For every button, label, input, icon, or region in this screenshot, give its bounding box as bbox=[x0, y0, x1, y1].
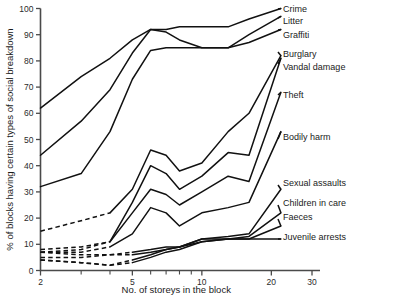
legend-label-10: Juvenile arrests bbox=[283, 232, 347, 242]
series-line-5 bbox=[110, 92, 281, 241]
legend-leader-0 bbox=[278, 9, 281, 10]
y-tick-label: 60 bbox=[24, 108, 34, 118]
series-line-0 bbox=[41, 9, 281, 109]
series-line-1 bbox=[41, 16, 281, 155]
legend-leader-7 bbox=[278, 185, 281, 189]
series-line-9 bbox=[132, 226, 281, 260]
legend-label-7: Sexual assaults bbox=[283, 178, 347, 188]
x-axis-title: No. of storeys in the block bbox=[122, 284, 232, 295]
legend-leader-3 bbox=[278, 52, 281, 56]
y-tick-label: 80 bbox=[24, 56, 34, 66]
y-tick-label: 0 bbox=[29, 266, 34, 276]
legend-leader-2 bbox=[278, 29, 281, 30]
legend-label-2: Graffiti bbox=[283, 30, 309, 40]
legend-label-1: Litter bbox=[283, 16, 303, 26]
legend-leader-1 bbox=[278, 16, 281, 18]
x-tick-label: 30 bbox=[307, 277, 317, 287]
y-axis-title: % of blocks having certain types of soci… bbox=[4, 28, 15, 250]
line-chart: 010203040506070809010025102030No. of sto… bbox=[0, 0, 395, 298]
legend-label-0: Crime bbox=[283, 4, 307, 14]
legend-leader-8 bbox=[278, 205, 281, 213]
y-tick-label: 100 bbox=[19, 4, 33, 14]
y-tick-label: 50 bbox=[24, 135, 34, 145]
legend-label-3: Burglary bbox=[283, 49, 317, 59]
y-tick-label: 10 bbox=[24, 239, 34, 249]
y-tick-label: 40 bbox=[24, 161, 34, 171]
series-line-dashed-3 bbox=[41, 213, 110, 231]
legend-label-5: Theft bbox=[283, 90, 304, 100]
y-tick-label: 70 bbox=[24, 82, 34, 92]
series-line-dashed-8 bbox=[41, 255, 133, 258]
legend-label-9: Faeces bbox=[283, 212, 313, 222]
y-tick-label: 90 bbox=[24, 30, 34, 40]
x-tick-label: 20 bbox=[267, 277, 277, 287]
y-tick-label: 20 bbox=[24, 213, 34, 223]
y-tick-label: 30 bbox=[24, 187, 34, 197]
series-line-4 bbox=[110, 58, 281, 241]
legend-leader-9 bbox=[278, 219, 281, 226]
series-line-2 bbox=[41, 29, 281, 186]
x-tick-label: 2 bbox=[38, 277, 43, 287]
series-line-dashed-4 bbox=[41, 242, 110, 250]
series-line-6 bbox=[110, 132, 281, 247]
legend-label-8: Children in care bbox=[283, 198, 346, 208]
legend-label-6: Bodily harm bbox=[283, 132, 331, 142]
chart-container: 010203040506070809010025102030No. of sto… bbox=[0, 0, 395, 298]
series-line-7 bbox=[132, 189, 281, 252]
legend-label-4: Vandal damage bbox=[283, 62, 345, 72]
